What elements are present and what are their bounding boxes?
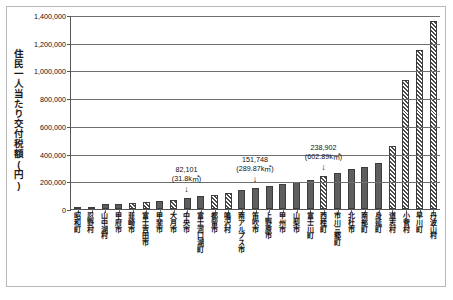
x-tick-label: 早川町	[416, 212, 424, 288]
bar-slot	[276, 16, 290, 209]
x-tick-label: 山中湖村	[100, 212, 108, 288]
bar	[430, 21, 437, 209]
bar	[389, 146, 396, 209]
y-axis-tick-labels: 0200,000400,000600,000800,0001,000,0001,…	[22, 10, 66, 215]
x-tick-label: 笛吹市	[251, 212, 259, 288]
bar-slot	[317, 16, 331, 209]
bar	[307, 180, 314, 209]
y-tick-label: 800,000	[40, 95, 66, 104]
x-label-slot: 中央市	[180, 212, 194, 288]
bar	[252, 188, 259, 209]
x-tick-label: 中央市	[183, 212, 191, 288]
y-tick-label: 1,200,000	[34, 39, 66, 48]
x-label-slot: 甲州市	[276, 212, 290, 288]
gridline	[71, 99, 440, 100]
x-tick-label: 韮崎市	[128, 212, 136, 288]
y-tickmark	[67, 71, 71, 72]
bar-slot	[358, 16, 372, 209]
bar-slot	[303, 16, 317, 209]
gridline	[71, 44, 440, 45]
bar-slot	[426, 16, 440, 209]
bar	[334, 173, 341, 209]
annotation-area: (31.8k㎡)	[146, 174, 226, 183]
x-label-slot: 富士河口湖町	[193, 212, 207, 288]
x-label-slot: 身延町	[371, 212, 385, 288]
x-label-slot: 北杜市	[344, 212, 358, 288]
x-label-slot: 昭和町	[70, 212, 84, 288]
bar	[225, 193, 232, 209]
x-label-slot: 忍野村	[84, 212, 98, 288]
bar	[197, 196, 204, 209]
x-label-slot: 甲府市	[111, 212, 125, 288]
x-label-slot: 道志村	[385, 212, 399, 288]
chart-root: 住民一人当たり交付税額(円) 0200,000400,000600,000800…	[0, 0, 453, 300]
x-label-slot: 富士川町	[303, 212, 317, 288]
bar-slot	[385, 16, 399, 209]
bar	[279, 184, 286, 209]
x-tick-label: 北杜市	[347, 212, 355, 288]
bar	[375, 163, 382, 209]
x-tick-label: 南部町	[361, 212, 369, 288]
bar	[293, 182, 300, 209]
x-tick-label: 甲府市	[114, 212, 122, 288]
bar	[211, 195, 218, 209]
y-tickmark	[67, 127, 71, 128]
x-label-slot: 鳴沢村	[221, 212, 235, 288]
x-tick-label: 甲斐市	[155, 212, 163, 288]
x-label-slot: 甲斐市	[152, 212, 166, 288]
x-tick-label: 鳴沢村	[224, 212, 232, 288]
y-tick-label: 600,000	[40, 122, 66, 131]
bar	[143, 202, 150, 209]
x-axis-tick-labels: 昭和町忍野村山中湖村甲府市韮崎市富士吉田市甲斐市大月市中央市富士河口湖町都留市鳴…	[70, 212, 440, 288]
x-tick-label: 山梨市	[292, 212, 300, 288]
x-label-slot: 韮崎市	[125, 212, 139, 288]
x-tick-label: 富士河口湖町	[196, 212, 204, 288]
x-label-slot: 西桂町	[317, 212, 331, 288]
x-label-slot: 大月市	[166, 212, 180, 288]
gridline	[71, 127, 440, 128]
x-tick-label: 道志村	[388, 212, 396, 288]
bar-slot	[399, 16, 413, 209]
bar	[416, 50, 423, 209]
annotation-area: (602.89k㎡)	[284, 152, 364, 161]
bar	[184, 198, 191, 209]
x-tick-label: 富士川町	[306, 212, 314, 288]
y-tick-label: 400,000	[40, 150, 66, 159]
y-tickmark	[67, 44, 71, 45]
x-label-slot: 上野原市	[262, 212, 276, 288]
bar-slot	[331, 16, 345, 209]
bar-slot	[290, 16, 304, 209]
y-tick-label: 1,000,000	[34, 67, 66, 76]
x-label-slot: 富士吉田市	[139, 212, 153, 288]
y-tickmark	[67, 16, 71, 17]
bar	[170, 200, 177, 209]
x-label-slot: 小菅村	[399, 212, 413, 288]
y-tickmark	[67, 182, 71, 183]
bar	[348, 169, 355, 209]
bar	[361, 167, 368, 209]
x-tick-label: 南アルプス市	[237, 212, 245, 288]
x-tick-label: 大月市	[169, 212, 177, 288]
bar-slot	[126, 16, 140, 209]
x-label-slot: 山梨市	[289, 212, 303, 288]
bar	[320, 176, 327, 209]
x-label-slot: 笛吹市	[248, 212, 262, 288]
x-tick-label: 上野原市	[265, 212, 273, 288]
x-tick-label: 富士吉田市	[142, 212, 150, 288]
bar	[266, 186, 273, 209]
x-tick-label: 昭和町	[73, 212, 81, 288]
bar-slot	[85, 16, 99, 209]
x-label-slot: 丹波山村	[426, 212, 440, 288]
bar	[238, 190, 245, 209]
x-tick-label: 丹波山村	[429, 212, 437, 288]
x-label-slot: 南部町	[358, 212, 372, 288]
y-tickmark	[67, 210, 71, 211]
y-tickmark	[67, 99, 71, 100]
annotation-arrow-icon: ↓	[176, 185, 196, 194]
x-label-slot: 都留市	[207, 212, 221, 288]
x-label-slot: 山中湖村	[97, 212, 111, 288]
x-tick-label: 市川三郷町	[333, 212, 341, 288]
bar	[156, 201, 163, 209]
y-tick-label: 1,400,000	[34, 12, 66, 21]
x-tick-label: 身延町	[375, 212, 383, 288]
